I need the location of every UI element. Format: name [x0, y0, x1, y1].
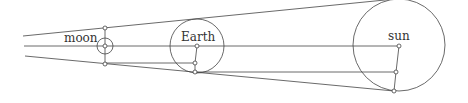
moon-top-point: [103, 26, 107, 30]
moon-bottom-point: [103, 62, 107, 66]
moon-label: moon: [64, 31, 98, 45]
earth-center-point: [195, 44, 199, 48]
sun-bottom-point: [392, 89, 396, 93]
moon-earth-sun-diagram: moon Earth sun: [0, 0, 468, 103]
sun-label: sun: [388, 29, 410, 43]
sun-radius-line: [394, 46, 399, 91]
moon-center-point: [103, 44, 107, 48]
earth-mid-point: [193, 61, 197, 65]
lower-tangent-line: [25, 56, 394, 91]
sun-center-point: [397, 44, 401, 48]
earth-bottom-point: [193, 70, 197, 74]
earth-label: Earth: [181, 30, 215, 44]
sun-mid-point: [394, 70, 398, 74]
earth-radius-line: [195, 46, 197, 72]
